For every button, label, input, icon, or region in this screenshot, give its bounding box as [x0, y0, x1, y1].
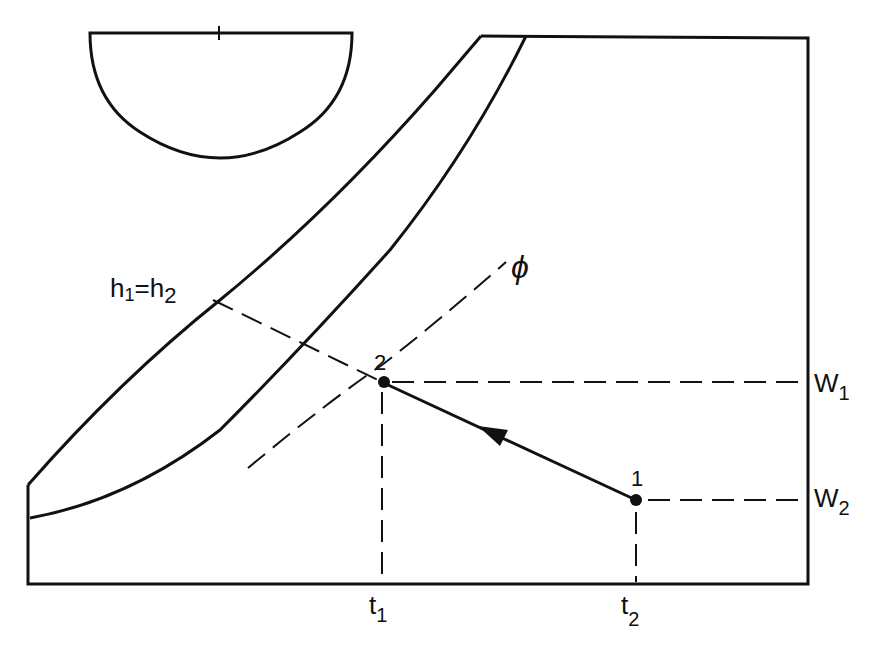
point-1-label: 1 [631, 466, 643, 491]
state-point-1 [630, 494, 642, 506]
relative-humidity-label: ϕ [511, 249, 529, 285]
t1-label: t1 [369, 590, 387, 626]
enthalpy-line [213, 300, 382, 382]
process-line [386, 384, 636, 500]
protractor-semicircle [90, 26, 352, 158]
w1-label: W1 [814, 368, 850, 404]
enthalpy-label: h1=h2 [110, 273, 176, 308]
construction-lines [213, 262, 806, 582]
t2-label: t2 [621, 590, 639, 630]
arrow-icon [478, 426, 508, 446]
chart-frame [28, 36, 808, 584]
psychrometric-diagram: h1=h2 ϕ 2 1 W1 W2 t1 t2 [0, 0, 878, 646]
point-2-label: 2 [374, 350, 386, 375]
w2-label: W2 [814, 483, 850, 519]
saturation-curve [30, 36, 526, 518]
state-point-2 [378, 376, 390, 388]
